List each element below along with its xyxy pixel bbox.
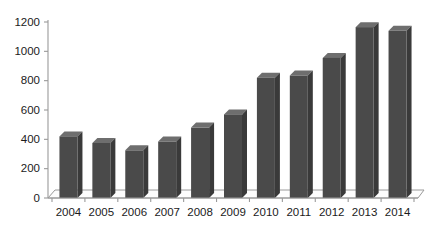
bar xyxy=(290,71,313,198)
bar xyxy=(224,109,247,198)
y-tick-label: 200 xyxy=(21,162,40,174)
bar-front-face xyxy=(59,136,77,198)
bar xyxy=(125,145,148,198)
bar-front-face xyxy=(389,31,407,198)
bar-front-face xyxy=(356,27,374,198)
x-tick-label: 2009 xyxy=(220,206,246,218)
bar-side-face xyxy=(110,138,115,198)
bar-series xyxy=(59,22,411,198)
x-tick-label: 2006 xyxy=(121,206,147,218)
bar-side-face xyxy=(143,145,148,198)
bar-side-face xyxy=(209,123,214,198)
y-tick-label: 600 xyxy=(21,104,40,116)
bar xyxy=(257,73,280,198)
x-tick-label: 2013 xyxy=(352,206,378,218)
bar xyxy=(59,131,82,198)
bar xyxy=(191,123,214,198)
bar-side-face xyxy=(176,137,181,198)
x-tick-label: 2004 xyxy=(56,206,82,218)
y-tick-label: 800 xyxy=(21,74,40,86)
y-tick-label: 0 xyxy=(34,192,40,204)
y-axis: 020040060080010001200 xyxy=(14,16,48,204)
x-tick-label: 2005 xyxy=(89,206,115,218)
bar-front-face xyxy=(323,58,341,198)
bar-front-face xyxy=(224,114,242,198)
bar xyxy=(356,22,379,198)
x-tick-label: 2007 xyxy=(154,206,180,218)
bar xyxy=(323,53,346,198)
bar-front-face xyxy=(191,128,209,198)
y-tick-label: 1200 xyxy=(14,16,40,28)
x-tick-label: 2011 xyxy=(286,206,311,218)
x-axis: 2004200520062007200820092010201120122013… xyxy=(48,198,418,218)
bar-side-face xyxy=(407,26,412,198)
y-tick-label: 400 xyxy=(21,133,40,145)
bar-side-face xyxy=(275,73,280,198)
bar-chart: 020040060080010001200 200420052006200720… xyxy=(0,0,432,235)
bar-side-face xyxy=(77,131,82,198)
bar-front-face xyxy=(92,143,110,198)
bar-side-face xyxy=(374,22,379,198)
bar xyxy=(389,26,412,198)
bar-front-face xyxy=(290,76,308,198)
bar-side-face xyxy=(308,71,313,198)
chart-canvas: 020040060080010001200 200420052006200720… xyxy=(0,0,432,235)
bar xyxy=(92,138,115,198)
x-tick-label: 2010 xyxy=(253,206,279,218)
bar-front-face xyxy=(257,78,275,198)
y-tick-label: 1000 xyxy=(14,45,40,57)
bar-front-face xyxy=(158,142,176,198)
bar-front-face xyxy=(125,150,143,198)
x-tick-label: 2014 xyxy=(385,206,411,218)
bar-side-face xyxy=(341,53,346,198)
x-tick-label: 2008 xyxy=(187,206,213,218)
bar-side-face xyxy=(242,109,247,198)
x-tick-label: 2012 xyxy=(319,206,345,218)
bar xyxy=(158,137,181,198)
